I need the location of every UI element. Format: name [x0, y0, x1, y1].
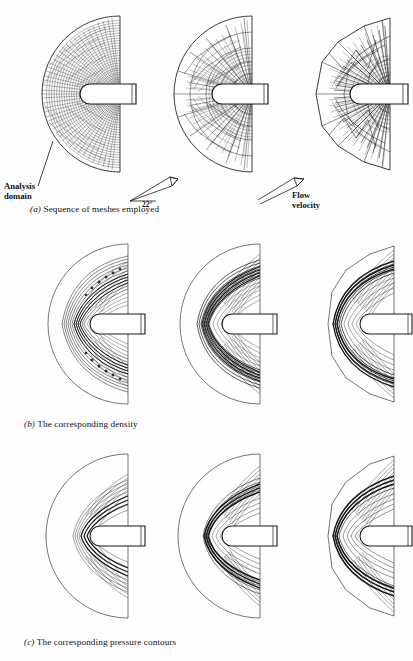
pressure-contours-2 — [152, 450, 277, 622]
analysis-domain-line2: domain — [4, 191, 35, 201]
blunt-body — [90, 314, 145, 334]
blunt-body — [222, 314, 277, 334]
blunt-body — [90, 526, 145, 546]
figure-root: Analysis domain 22° Flow velocity (a) S — [0, 0, 413, 661]
pressure-contours-3 — [284, 450, 412, 622]
blunt-body — [360, 314, 412, 334]
angle-arrow-icon — [126, 169, 188, 209]
caption-a: (a) Sequence of meshes employed — [30, 204, 159, 214]
flow-velocity-line1: Flow — [292, 190, 320, 200]
caption-b: (b) The corresponding density — [24, 419, 138, 429]
analysis-domain-label: Analysis domain — [4, 181, 35, 201]
mesh-adapted-1 — [140, 14, 268, 174]
density-contours-2 — [152, 240, 277, 408]
blunt-body — [360, 526, 412, 546]
density-contours-1 — [20, 240, 145, 408]
caption-a-marker: (a) — [30, 204, 41, 214]
mesh-adapted-2 — [272, 14, 408, 174]
analysis-domain-line1: Analysis — [4, 181, 35, 191]
row-b-density — [0, 240, 413, 408]
caption-c: (c) The corresponding pressure contours — [24, 637, 176, 647]
caption-a-text: Sequence of meshes employed — [43, 204, 159, 214]
blunt-body — [80, 84, 136, 104]
flow-velocity-label: Flow velocity — [292, 190, 320, 210]
caption-b-text: The corresponding density — [37, 419, 137, 429]
blunt-body — [350, 84, 408, 104]
pressure-contours-1 — [20, 450, 145, 622]
row-c-pressure — [0, 450, 413, 622]
density-contours-3 — [284, 240, 412, 408]
mesh-initial — [8, 14, 136, 174]
blunt-body — [222, 526, 277, 546]
row-a-meshes: Analysis domain 22° Flow velocity — [0, 14, 413, 174]
flow-velocity-line2: velocity — [292, 200, 320, 210]
caption-c-text: The corresponding pressure contours — [37, 637, 177, 647]
blunt-body — [212, 84, 268, 104]
caption-c-marker: (c) — [24, 637, 35, 647]
caption-b-marker: (b) — [24, 419, 35, 429]
